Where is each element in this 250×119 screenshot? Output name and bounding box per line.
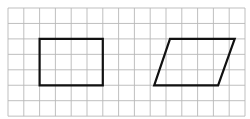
grid-lines xyxy=(8,8,245,116)
grid-diagram xyxy=(0,0,250,119)
